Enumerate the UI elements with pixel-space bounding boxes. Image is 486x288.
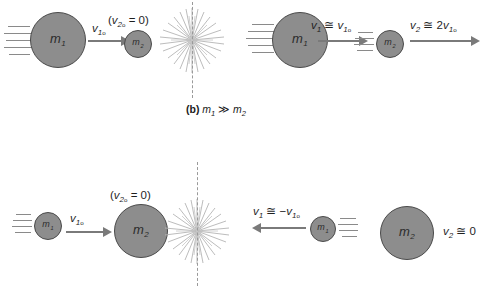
panel-c-m1-much-less-m2: m1 v1o (v2o = 0) m2 <box>0 144 486 288</box>
arrow-v1o-before-bottom <box>66 227 112 237</box>
physics-collision-figure: m1 v1o (v2o = 0) m2 <box>0 0 486 288</box>
rest-label-v2o-zero-before-bottom: (v2o = 0) <box>110 189 151 204</box>
ball-label-m2-after-top: m2 <box>384 38 395 49</box>
ball-label-m2-before-bottom: m2 <box>133 223 149 240</box>
ball-m2-before-bottom: m2 <box>114 204 168 258</box>
ball-m1-before-bottom: m1 <box>34 212 62 240</box>
ball-label-m1-before-bottom: m1 <box>42 220 53 231</box>
velocity-label-v2-after-bottom: v2 ≅ 0 <box>443 224 476 240</box>
panel-b-m1-much-greater-m2: m1 v1o (v2o = 0) m2 <box>0 0 486 144</box>
arrow-v2-after-top <box>410 36 480 46</box>
ball-label-m1-after-top: m1 <box>292 32 308 49</box>
panel-b-caption: (b) m1 ≫ m2 <box>186 103 246 118</box>
ball-m1-before-top: m1 <box>30 12 86 68</box>
rest-label-v2o-zero-before-top: (v2o = 0) <box>108 14 149 29</box>
velocity-label-v1-after-top: v1 ≅ v1o <box>311 18 351 34</box>
ball-m1-after-bottom: m1 <box>310 216 336 242</box>
velocity-label-v1o-before-top: v1o <box>92 22 106 37</box>
arrow-v1-after-bottom <box>252 223 306 233</box>
ball-label-m2-after-bottom: m2 <box>399 225 415 242</box>
ball-m2-after-bottom: m2 <box>380 206 434 260</box>
ball-label-m2-before-top: m2 <box>132 38 143 49</box>
speedlines-m1-before-bottom <box>12 212 34 238</box>
velocity-label-v1o-before-bottom: v1o <box>70 212 84 227</box>
ball-m2-before-top: m2 <box>124 30 152 58</box>
collision-axis-dashed-bottom <box>197 162 198 286</box>
collision-axis-dashed-top <box>192 2 193 98</box>
velocity-label-v2-after-top: v2 ≅ 2v1o <box>410 18 457 34</box>
ball-m2-after-top: m2 <box>376 30 404 58</box>
velocity-label-v1-after-bottom: v1 ≅ −v1o <box>253 204 300 220</box>
speedlines-m1-after-bottom <box>338 216 360 242</box>
ball-label-m1-after-bottom: m1 <box>317 223 328 234</box>
speedlines-m2-after-top <box>354 30 376 56</box>
ball-label-m1-before-top: m1 <box>50 32 66 49</box>
